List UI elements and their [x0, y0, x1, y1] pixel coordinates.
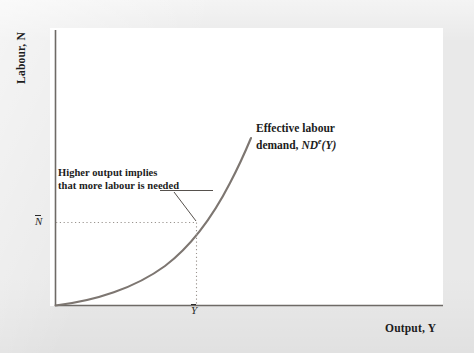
annotation-note: Higher output implies that more labour i…	[58, 167, 184, 192]
n-bar-symbol: N	[35, 214, 42, 227]
x-axis-tick-label-y-bar: Y	[191, 303, 197, 316]
x-axis-title: Output, Y	[385, 322, 436, 334]
figure-container: Labour, N Output, Y N Y Higher output im…	[0, 0, 474, 353]
effective-labour-demand-curve	[56, 138, 252, 306]
annotation-note-line-1: Higher output implies	[58, 167, 157, 178]
y-axis-title: Labour, N	[15, 19, 27, 97]
curve-label-argument: (Y)	[322, 139, 337, 151]
y-axis-tick-label-n-bar: N	[35, 214, 42, 227]
annotation-leader-diagonal	[174, 192, 196, 221]
y-bar-symbol: Y	[191, 303, 197, 316]
curve-label: Effective labour demand, NDe(Y)	[256, 121, 386, 152]
curve-label-symbol: ND	[301, 139, 318, 151]
curve-label-prefix: demand,	[256, 139, 301, 151]
curve-label-line-1: Effective labour	[256, 122, 335, 134]
annotation-note-line-2: that more labour is needed	[58, 180, 179, 191]
